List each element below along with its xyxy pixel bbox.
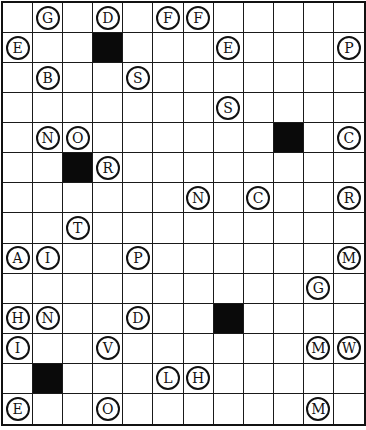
grid-cell[interactable] [123, 183, 153, 213]
grid-cell[interactable] [3, 153, 33, 183]
grid-cell[interactable] [153, 33, 183, 63]
grid-cell[interactable] [63, 304, 93, 334]
grid-cell[interactable]: D [123, 304, 153, 334]
grid-cell[interactable] [244, 364, 274, 394]
grid-cell[interactable]: R [334, 183, 364, 213]
grid-cell[interactable]: N [33, 304, 63, 334]
grid-cell[interactable] [123, 213, 153, 243]
grid-cell[interactable] [214, 153, 244, 183]
grid-cell[interactable] [3, 123, 33, 153]
grid-cell[interactable] [214, 183, 244, 213]
grid-cell[interactable]: R [93, 153, 123, 183]
grid-cell[interactable]: E [3, 394, 33, 424]
grid-cell[interactable]: C [334, 123, 364, 153]
grid-cell[interactable] [304, 63, 334, 93]
grid-cell[interactable] [63, 364, 93, 394]
grid-cell[interactable] [123, 153, 153, 183]
grid-cell[interactable] [33, 33, 63, 63]
grid-cell[interactable] [63, 3, 93, 33]
grid-cell[interactable] [153, 93, 183, 123]
grid-cell[interactable] [3, 183, 33, 213]
grid-cell[interactable] [304, 183, 334, 213]
grid-cell[interactable] [214, 123, 244, 153]
grid-cell[interactable] [304, 364, 334, 394]
grid-cell[interactable] [63, 334, 93, 364]
grid-cell[interactable] [184, 213, 214, 243]
grid-cell[interactable] [63, 394, 93, 424]
grid-cell[interactable] [334, 93, 364, 123]
grid-cell[interactable] [244, 123, 274, 153]
grid-cell[interactable]: M [304, 334, 334, 364]
grid-cell[interactable] [334, 274, 364, 304]
grid-cell[interactable]: L [153, 364, 183, 394]
grid-cell[interactable] [33, 274, 63, 304]
grid-cell[interactable] [153, 123, 183, 153]
grid-cell[interactable] [153, 213, 183, 243]
grid-cell[interactable] [244, 244, 274, 274]
grid-cell[interactable]: H [3, 304, 33, 334]
grid-cell[interactable] [274, 183, 304, 213]
grid-cell[interactable] [93, 93, 123, 123]
grid-cell[interactable] [334, 63, 364, 93]
grid-cell[interactable] [153, 304, 183, 334]
grid-cell[interactable]: G [304, 274, 334, 304]
grid-cell[interactable] [304, 3, 334, 33]
grid-cell[interactable] [214, 364, 244, 394]
grid-cell[interactable] [153, 394, 183, 424]
grid-cell[interactable] [244, 274, 274, 304]
grid-cell[interactable] [274, 93, 304, 123]
grid-cell[interactable]: B [33, 63, 63, 93]
grid-cell[interactable] [274, 33, 304, 63]
grid-cell[interactable] [123, 334, 153, 364]
grid-cell[interactable] [93, 213, 123, 243]
grid-cell[interactable] [184, 304, 214, 334]
grid-cell[interactable] [123, 394, 153, 424]
grid-cell[interactable]: E [214, 33, 244, 63]
grid-cell[interactable] [33, 334, 63, 364]
grid-cell[interactable] [93, 123, 123, 153]
grid-cell[interactable] [93, 183, 123, 213]
grid-cell[interactable]: F [184, 3, 214, 33]
grid-cell[interactable] [123, 93, 153, 123]
grid-cell[interactable] [3, 364, 33, 394]
grid-cell[interactable] [244, 93, 274, 123]
grid-cell[interactable] [304, 153, 334, 183]
grid-cell[interactable] [184, 244, 214, 274]
grid-cell[interactable] [93, 304, 123, 334]
grid-cell[interactable] [274, 3, 304, 33]
grid-cell[interactable] [184, 93, 214, 123]
grid-cell[interactable] [304, 33, 334, 63]
grid-cell[interactable]: P [334, 33, 364, 63]
grid-cell[interactable] [153, 63, 183, 93]
grid-cell[interactable] [63, 93, 93, 123]
grid-cell[interactable]: N [184, 183, 214, 213]
grid-cell[interactable] [334, 3, 364, 33]
grid-cell[interactable] [304, 123, 334, 153]
grid-cell[interactable] [184, 274, 214, 304]
grid-cell[interactable] [244, 33, 274, 63]
grid-cell[interactable] [244, 213, 274, 243]
grid-cell[interactable] [274, 394, 304, 424]
grid-cell[interactable] [274, 334, 304, 364]
grid-cell[interactable]: D [93, 3, 123, 33]
grid-cell[interactable] [184, 153, 214, 183]
grid-cell[interactable] [184, 394, 214, 424]
grid-cell[interactable] [274, 153, 304, 183]
grid-cell[interactable]: C [244, 183, 274, 213]
grid-cell[interactable]: T [63, 213, 93, 243]
grid-cell[interactable] [63, 33, 93, 63]
grid-cell[interactable]: F [153, 3, 183, 33]
grid-cell[interactable] [93, 244, 123, 274]
grid-cell[interactable]: N [33, 123, 63, 153]
grid-cell[interactable] [304, 213, 334, 243]
grid-cell[interactable] [334, 364, 364, 394]
grid-cell[interactable] [153, 274, 183, 304]
grid-cell[interactable] [123, 274, 153, 304]
grid-cell[interactable] [274, 213, 304, 243]
grid-cell[interactable] [3, 213, 33, 243]
grid-cell[interactable] [214, 63, 244, 93]
grid-cell[interactable] [334, 304, 364, 334]
grid-cell[interactable]: H [184, 364, 214, 394]
grid-cell[interactable]: O [93, 394, 123, 424]
grid-cell[interactable] [214, 3, 244, 33]
